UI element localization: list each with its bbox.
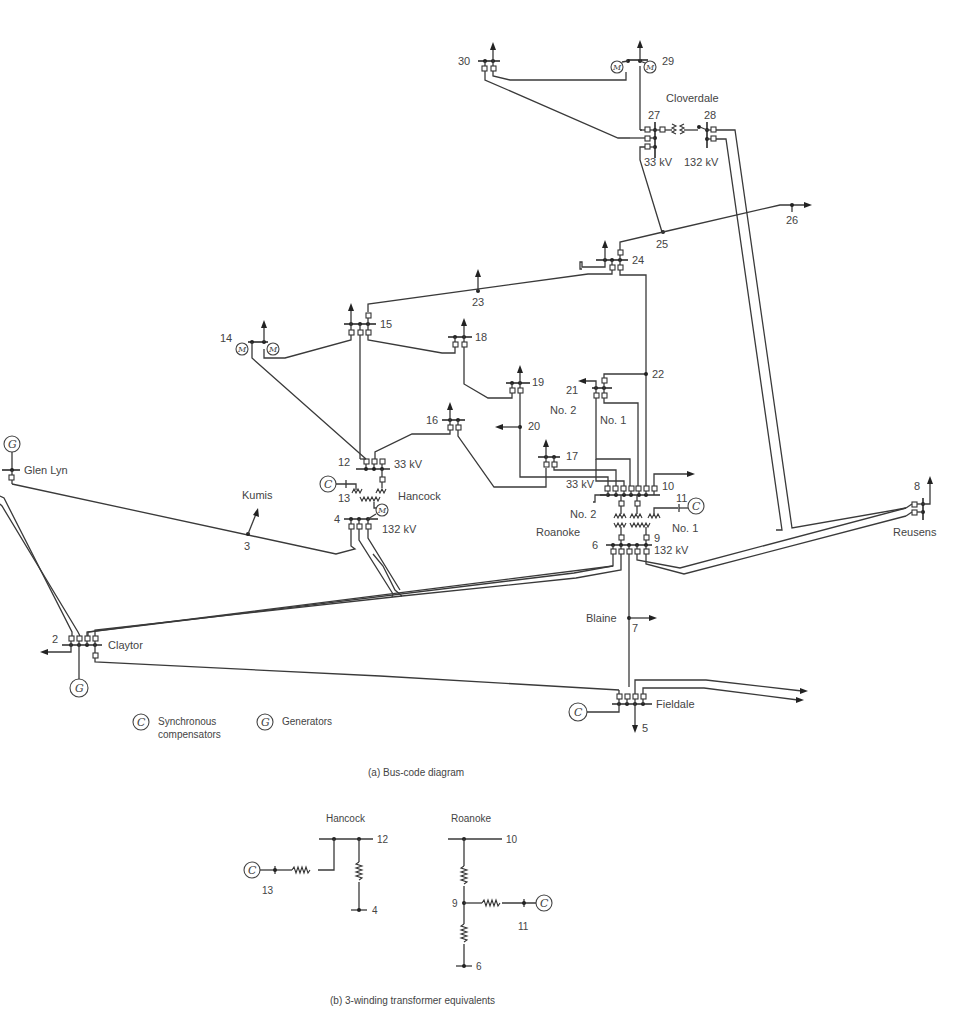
bus-label-29: 29 [662, 55, 674, 67]
roanoke-33kv-label: 33 kV [566, 478, 595, 490]
station-reusens: Reusens [893, 526, 937, 538]
bus-label-4: 4 [334, 513, 340, 525]
bus-label-30: 30 [458, 55, 470, 67]
station-glen-lyn: Glen Lyn [24, 464, 68, 476]
bus-label-10: 10 [662, 480, 674, 492]
roanoke-equivalent: Roanoke 10 9 C 11 6 [448, 813, 552, 972]
station-fieldale: Fieldale [656, 698, 695, 710]
bus-label-19: 19 [532, 376, 544, 388]
bus-label-23: 23 [472, 296, 484, 308]
bus-code-diagram: 30 M M 29 [0, 0, 974, 1032]
caption-a: (a) Bus-code diagram [368, 767, 464, 778]
caption-b: (b) 3-winding transformer equivalents [330, 995, 495, 1006]
hancock-132kv-label: 132 kV [382, 523, 417, 535]
bus-label-25: 25 [656, 238, 668, 250]
bus-25-26-group: 25 26 [620, 202, 812, 250]
roanoke-no2-upper-label: No. 2 [550, 404, 576, 416]
hancock-33kv-label: 33 kV [394, 458, 423, 470]
compensator-symbol: C [248, 864, 257, 877]
equiv-bus-12: 12 [377, 834, 389, 845]
bus-label-3: 3 [244, 540, 250, 552]
bus-label-9: 9 [654, 532, 660, 544]
roanoke-no1-upper-label: No. 1 [600, 414, 626, 426]
legend-compensators-line1: Synchronous [158, 716, 216, 727]
hancock-substation: 12 33 kV C 13 Hancock M 4 132 kV [12, 456, 441, 597]
bus-label-20: 20 [528, 420, 540, 432]
glen-lyn-group: G Glen Lyn [0, 436, 80, 636]
station-roanoke: Roanoke [536, 526, 580, 538]
bus-label-28: 28 [704, 109, 716, 121]
fieldale-group: C Fieldale 5 [569, 680, 808, 734]
bus-15-group: 15 [264, 303, 455, 459]
bus-label-7: 7 [632, 622, 638, 634]
bus-label-27: 27 [648, 109, 660, 121]
bus-label-22: 22 [652, 368, 664, 380]
generator-symbol: G [75, 682, 84, 695]
bus-label-14: 14 [220, 332, 232, 344]
motor-symbol: M [612, 63, 622, 72]
cloverdale-132kv-label: 132 kV [684, 156, 719, 168]
legend-generators: Generators [282, 716, 332, 727]
equiv-bus-9: 9 [452, 898, 458, 909]
motor-symbol: M [377, 506, 387, 515]
bus-21-group: 21 22 No. 1 No. 2 [550, 368, 664, 487]
compensator-symbol: C [692, 500, 701, 513]
roanoke-132kv-label: 132 kV [654, 544, 689, 556]
generator-legend-icon: G [261, 716, 270, 729]
equiv-bus-6: 6 [476, 961, 482, 972]
station-cloverdale: Cloverdale [666, 92, 719, 104]
equiv-bus-10: 10 [506, 834, 518, 845]
bus-3-group: 3 Kumis [242, 489, 273, 552]
equiv-bus-11: 11 [518, 921, 529, 932]
bus-14-group: M M 14 [220, 320, 366, 459]
bus-label-5: 5 [642, 722, 648, 734]
legend: C Synchronous compensators G Generators [133, 714, 332, 740]
bus-label-2: 2 [52, 633, 58, 645]
bus-label-12: 12 [338, 456, 350, 468]
bus-20-group: 20 [495, 420, 540, 432]
station-blaine: Blaine [586, 612, 617, 624]
reusens-group: 8 Reusens [893, 476, 937, 538]
compensator-symbol: C [324, 478, 333, 491]
claytor-group: G 2 Claytor [40, 566, 619, 697]
compensator-legend-icon: C [137, 716, 146, 729]
bus-30-group: 30 [458, 42, 630, 138]
motor-symbol: M [645, 63, 655, 72]
station-kumis: Kumis [242, 489, 273, 501]
hancock-equivalent-title: Hancock [326, 813, 366, 824]
roanoke-no2-lower-label: No. 2 [570, 508, 596, 520]
bus-label-18: 18 [475, 331, 487, 343]
bus-label-21: 21 [566, 384, 578, 396]
equiv-bus-13: 13 [262, 885, 274, 896]
cloverdale-33kv-label: 33 kV [644, 156, 673, 168]
motor-symbol: M [268, 345, 278, 354]
station-claytor: Claytor [108, 639, 143, 651]
compensator-symbol: C [540, 897, 549, 910]
bus-label-17: 17 [566, 450, 578, 462]
bus-label-16: 16 [426, 414, 438, 426]
equiv-bus-4: 4 [372, 905, 378, 916]
bus-label-26: 26 [786, 214, 798, 226]
bus-29-group: M M 29 [611, 40, 674, 130]
legend-compensators-line2: compensators [158, 729, 221, 740]
roanoke-no1-lower-label: No. 1 [672, 522, 698, 534]
blaine-group: Blaine 7 [586, 612, 657, 634]
bus-label-8: 8 [914, 480, 920, 492]
bus-label-15: 15 [380, 318, 392, 330]
bus-18-group: 18 [448, 318, 512, 398]
bus-28-group: 28 132 kV Cloverdale [666, 92, 906, 530]
generator-symbol: G [8, 438, 17, 451]
bus-label-11: 11 [676, 492, 687, 504]
bus-label-13: 13 [338, 492, 350, 504]
bus-label-24: 24 [632, 254, 644, 266]
motor-symbol: M [237, 345, 247, 354]
bus-label-6: 6 [592, 539, 598, 551]
station-hancock: Hancock [398, 490, 441, 502]
compensator-symbol: C [574, 706, 583, 719]
bus-24-group: 24 [368, 240, 646, 487]
roanoke-substation: 10 33 kV C 11 9 No. 2 No. 1 Roanoke [88, 459, 906, 687]
hancock-equivalent: Hancock 12 C 13 4 [244, 813, 389, 916]
roanoke-equivalent-title: Roanoke [451, 813, 491, 824]
bus-27-group: 27 33 kV [630, 109, 701, 232]
